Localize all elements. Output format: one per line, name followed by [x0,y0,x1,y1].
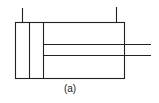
cylinder-barrel [16,23,125,79]
figure-caption: (a) [0,83,140,94]
